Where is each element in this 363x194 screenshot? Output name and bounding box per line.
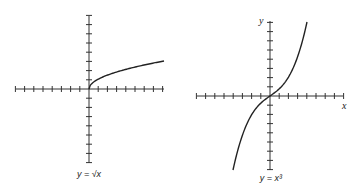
sqrt-curve [89,61,164,89]
y-axis-label: y [258,15,264,26]
graph-cube: x y y = x³ [196,15,347,183]
figure: y = √x x y y = x³ [0,0,363,194]
graph-sqrt: y = √x [15,15,164,179]
x-axis-label: x [341,100,347,111]
caption-cube: y = x³ [259,173,283,183]
caption-sqrt: y = √x [76,169,102,179]
